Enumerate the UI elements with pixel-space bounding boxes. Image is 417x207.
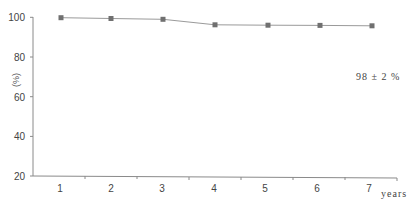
x-axis-line [33,176,397,178]
data-point-year-4 [213,22,218,27]
y-tick-label-100: 100 [8,12,25,23]
x-tick-label-3: 3 [159,183,165,194]
data-point-year-5 [266,23,271,28]
x-tick-label-6: 6 [314,183,320,194]
data-point-year-6 [318,23,323,28]
y-tick-label-60: 60 [14,92,26,103]
x-axis-title: years [381,188,407,199]
y-tick-label-40: 40 [14,131,26,142]
data-point-year-7 [370,23,375,28]
y-axis-title: (%) [11,73,21,87]
x-tick-label-1: 1 [57,183,63,194]
y-tick-label-20: 20 [14,171,26,182]
data-markers [59,15,375,28]
data-point-year-2 [109,16,114,21]
y-tick-labels: 100 80 60 40 20 [8,12,25,182]
x-tick-label-4: 4 [211,183,217,194]
x-tick-label-2: 2 [108,183,114,194]
y-tick-label-80: 80 [14,52,26,63]
x-tick-labels: 1 2 3 4 5 6 7 [57,183,372,194]
data-point-year-3 [161,17,166,22]
x-tick-label-7: 7 [366,183,372,194]
annotation-mean-sd: 98 ± 2 % [356,71,400,82]
line-chart: 100 80 60 40 20 (%) 1 2 3 4 5 6 7 years [0,0,417,207]
data-point-year-1 [59,15,64,20]
x-tick-label-5: 5 [262,183,268,194]
